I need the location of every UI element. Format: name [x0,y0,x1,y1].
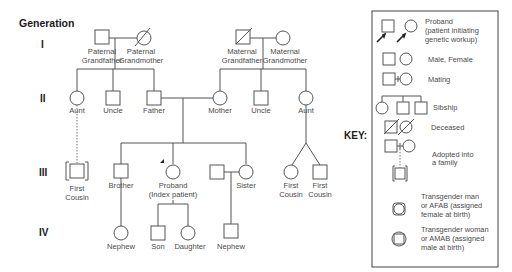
aunt-paternal-symbol [70,91,84,105]
paternal-grandfather-symbol [95,30,109,44]
uncle-paternal-symbol [106,91,120,105]
svg-text:First: First [70,184,86,193]
generation-label-ii: II [40,93,46,104]
svg-text:Nephew: Nephew [217,242,245,251]
svg-text:Cousin: Cousin [279,190,303,199]
sister-partner-symbol [210,165,224,179]
svg-text:Uncle: Uncle [103,106,122,115]
svg-text:Transgender man: Transgender man [421,192,479,201]
diagram-title: Generation [19,17,74,29]
svg-text:Son: Son [151,242,165,251]
son-symbol [151,226,165,240]
svg-text:Uncle: Uncle [251,106,270,115]
svg-text:male at birth): male at birth) [421,243,464,252]
key-title: KEY: [344,130,367,141]
aunt-maternal-symbol [299,91,313,105]
svg-text:First: First [313,181,329,190]
svg-text:genetic workup): genetic workup) [425,35,477,44]
svg-text:or AFAB (assigned: or AFAB (assigned [421,201,482,210]
maternal-grandmother-symbol [276,31,290,45]
brother-symbol [114,164,128,178]
svg-text:Transgender woman: Transgender woman [421,225,489,234]
svg-text:Grandfather: Grandfather [222,56,263,65]
first-cousin-2-symbol [313,165,327,179]
svg-text:Cousin: Cousin [308,190,332,199]
generation-label-iii: III [39,167,48,178]
svg-text:Maternal: Maternal [227,47,257,56]
svg-text:Daughter: Daughter [174,242,206,251]
first-cousin-1-symbol [284,165,298,179]
svg-text:Deceased: Deceased [431,123,464,132]
paternal-grandmother-symbol [137,31,151,45]
pedigree-diagram: Generation I II III IV Paternal Grandfat… [0,0,512,272]
daughter-symbol [181,226,195,240]
svg-text:First: First [284,181,300,190]
svg-text:a family: a family [432,158,458,167]
svg-text:Sibship: Sibship [433,103,457,112]
father-symbol [147,91,161,105]
svg-text:Grandfather: Grandfather [82,56,123,65]
generation-label-i: I [41,39,44,50]
first-cousin-adopted-symbol [70,164,84,178]
svg-text:Male, Female: Male, Female [428,55,473,64]
svg-text:Paternal: Paternal [127,47,156,56]
uncle-maternal-symbol [254,91,268,105]
svg-text:Sister: Sister [236,181,256,190]
svg-text:Mother: Mother [208,106,232,115]
mother-symbol [213,91,227,105]
svg-text:Proband: Proband [159,181,188,190]
svg-text:Grandmother: Grandmother [263,56,308,65]
proband-symbol [166,165,180,179]
svg-text:Grandmother: Grandmother [119,56,164,65]
svg-text:or AMAB (assigned: or AMAB (assigned [421,234,484,243]
generation-label-iv: IV [39,227,49,238]
sister-symbol [239,165,253,179]
svg-text:(Index patient): (Index patient) [149,190,198,199]
svg-text:Paternal: Paternal [88,47,117,56]
svg-text:Cousin: Cousin [65,193,89,202]
svg-text:Nephew: Nephew [107,242,135,251]
svg-text:Aunt: Aunt [69,106,86,115]
svg-text:Maternal: Maternal [270,47,300,56]
svg-text:Mating: Mating [428,75,450,84]
svg-text:Proband: Proband [425,17,453,26]
svg-text:female at birth): female at birth) [421,210,470,219]
nephew-2-symbol [224,224,238,238]
proband-arrow-icon [160,159,164,163]
nephew-1-symbol [114,226,128,240]
svg-text:Father: Father [143,106,165,115]
svg-text:(patient initiating: (patient initiating [425,26,479,35]
